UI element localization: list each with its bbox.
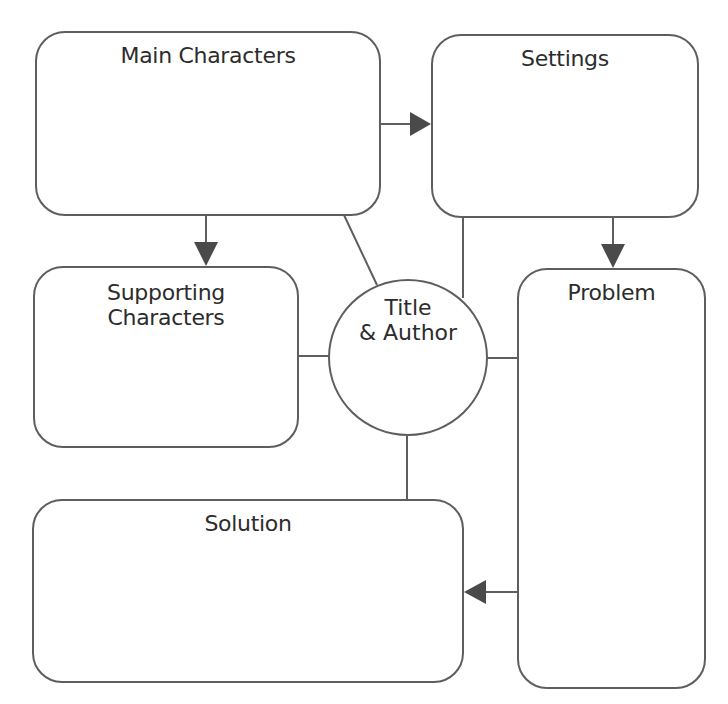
- problem-box: Problem: [517, 268, 706, 689]
- supporting-label-line2: Characters: [107, 305, 224, 330]
- problem-label: Problem: [519, 280, 704, 305]
- main-characters-box: Main Characters: [35, 31, 381, 216]
- supporting-characters-label: Supporting Characters: [35, 280, 297, 330]
- title-author-circle: Title & Author: [328, 279, 488, 436]
- title-label-line1: Title: [384, 295, 431, 320]
- solution-box: Solution: [32, 499, 464, 683]
- arrowhead-down-icon: [194, 242, 218, 266]
- solution-label: Solution: [34, 511, 462, 536]
- settings-box: Settings: [431, 34, 699, 218]
- settings-label: Settings: [433, 46, 697, 71]
- arrowhead-right-icon: [410, 112, 431, 136]
- connector-title-to-main: [344, 215, 377, 285]
- supporting-label-line1: Supporting: [107, 280, 225, 305]
- supporting-characters-box: Supporting Characters: [33, 266, 299, 448]
- arrowhead-left-icon: [464, 580, 486, 604]
- title-author-label: Title & Author: [330, 295, 486, 345]
- title-label-line2: & Author: [359, 320, 457, 345]
- main-characters-label: Main Characters: [37, 43, 379, 68]
- arrowhead-down-icon: [601, 244, 625, 268]
